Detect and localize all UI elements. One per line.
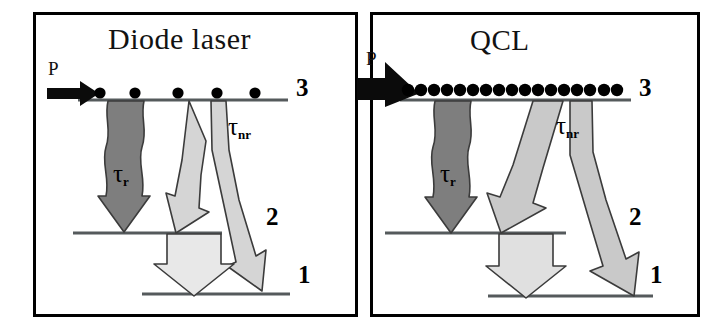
qcl-level-2-label: 2: [629, 203, 642, 231]
tau-subscript-nr: nr: [566, 126, 579, 141]
diode-depopulation-arrow: [154, 234, 234, 296]
diode-carrier-dots: [94, 87, 260, 98]
tau-symbol: τ: [113, 160, 123, 187]
tau-symbol: τ: [228, 113, 238, 140]
pump-label-diode: P: [48, 58, 59, 80]
tau-subscript-nr: nr: [238, 127, 251, 142]
qcl-level-1-label: 1: [650, 261, 663, 289]
panel-title-diode: Diode laser: [108, 22, 251, 56]
qcl-tau-r-label: τr: [440, 160, 456, 190]
figure-canvas: Diode laser QCL P P 3 2 1 3 2 1 τr τnr τ…: [0, 0, 717, 332]
qcl-depopulation-arrow: [486, 234, 566, 298]
diode-level-3-label: 3: [296, 74, 309, 102]
tau-symbol: τ: [556, 112, 566, 139]
diode-level-1-label: 1: [298, 261, 311, 289]
diode-level-2-label: 2: [266, 203, 279, 231]
qcl-tau-nr-label: τnr: [556, 112, 579, 142]
diode-pump-arrow: [47, 81, 99, 106]
diode-tau-nr-label: τnr: [228, 113, 251, 143]
diode-tau-r-label: τr: [113, 160, 129, 190]
tau-subscript-r: r: [450, 174, 456, 189]
qcl-level-3-label: 3: [639, 74, 652, 102]
qcl-carrier-dots: [402, 84, 623, 96]
panel-title-qcl: QCL: [470, 24, 530, 57]
pump-label-qcl: P: [366, 48, 377, 70]
tau-subscript-r: r: [123, 174, 129, 189]
tau-symbol: τ: [440, 160, 450, 187]
